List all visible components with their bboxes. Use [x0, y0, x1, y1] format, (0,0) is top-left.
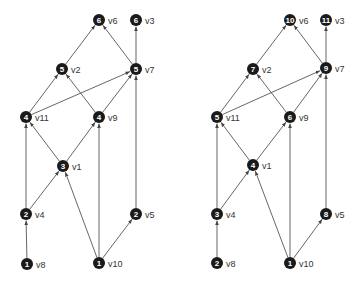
node-value: 6: [97, 16, 102, 25]
node-label: v11: [226, 113, 240, 123]
node-value: 3: [61, 162, 66, 171]
edge-v10-to-v1: [255, 171, 288, 257]
node-label: v2: [262, 65, 272, 75]
node-value: 1: [25, 260, 30, 269]
node-value: 5: [60, 65, 65, 74]
edge-v10-to-v5: [103, 219, 133, 258]
edge-v11-to-v2: [30, 74, 58, 112]
edge-v1-to-v9: [67, 122, 96, 161]
node-value: 10: [286, 16, 295, 25]
node-v10: 1v10: [93, 257, 123, 269]
edge-v4-to-v1: [30, 171, 59, 209]
edge-v1-to-v11: [221, 122, 250, 160]
node-v8: 2v8: [211, 257, 236, 269]
node-v10: 1v10: [284, 257, 314, 269]
edge-v10-to-v5: [294, 219, 323, 258]
node-label: v3: [335, 16, 345, 26]
node-value: 1: [288, 259, 293, 268]
edges-layer: [26, 25, 326, 258]
node-value: 2: [24, 210, 29, 219]
edge-v2-to-v6: [257, 25, 287, 64]
edge-v1-to-v11: [30, 122, 60, 161]
node-value: 3: [215, 210, 220, 219]
edge-v9-to-v2: [257, 74, 286, 112]
edge-v9-to-v2: [66, 74, 95, 112]
node-v2: 5v2: [56, 63, 81, 75]
edge-v4-to-v1: [221, 170, 250, 209]
node-label: v9: [108, 113, 118, 123]
edge-v10-to-v1: [65, 172, 97, 257]
node-label: v10: [299, 259, 314, 269]
node-v9: 4v9: [93, 111, 118, 123]
node-value: 7: [251, 65, 256, 74]
node-v9: 6v9: [284, 111, 309, 123]
node-label: v7: [335, 64, 345, 74]
edge-v1-to-v9: [257, 122, 286, 160]
node-label: v1: [262, 161, 272, 171]
edge-v7-to-v6: [294, 25, 323, 63]
node-v6: 6v6: [93, 14, 118, 26]
node-v4: 3v4: [211, 208, 236, 220]
node-v7: 5v7: [130, 63, 155, 75]
node-v11: 5v11: [211, 111, 240, 123]
node-value: 2: [134, 210, 139, 219]
node-value: 11: [322, 16, 331, 25]
node-label: v10: [108, 259, 123, 269]
node-label: v5: [145, 210, 155, 220]
edge-v7-to-v6: [103, 25, 132, 64]
node-value: 4: [24, 113, 29, 122]
edge-v2-to-v6: [66, 25, 96, 64]
node-value: 5: [134, 65, 139, 74]
node-v8: 1v8: [21, 258, 46, 270]
node-v7: 9v7: [320, 62, 345, 74]
node-label: v7: [145, 65, 155, 75]
node-value: 6: [134, 16, 139, 25]
edge-v11-to-v2: [221, 74, 250, 112]
edge-v8-to-v4: [26, 221, 27, 259]
node-value: 8: [324, 210, 329, 219]
node-value: 1: [97, 259, 102, 268]
dag-diagram: 6v66v35v25v74v114v93v12v42v51v81v1010v61…: [0, 0, 364, 284]
node-value: 9: [324, 64, 329, 73]
node-v1: 3v1: [57, 160, 82, 172]
node-v4: 2v4: [20, 208, 45, 220]
node-value: 4: [97, 113, 102, 122]
nodes-layer: 6v66v35v25v74v114v93v12v42v51v81v1010v61…: [20, 14, 345, 270]
node-label: v4: [35, 210, 45, 220]
node-value: 4: [251, 161, 256, 170]
edge-v9-to-v7: [294, 73, 323, 112]
node-value: 6: [288, 113, 293, 122]
node-v2: 7v2: [247, 63, 272, 75]
node-v6: 10v6: [284, 14, 309, 26]
node-label: v6: [108, 16, 118, 26]
left-graph-edges: [26, 25, 136, 258]
node-label: v9: [299, 113, 309, 123]
node-value: 2: [215, 259, 220, 268]
node-v1: 4v1: [247, 159, 272, 171]
node-v5: 8v5: [320, 208, 345, 220]
node-value: 5: [215, 113, 220, 122]
node-label: v2: [71, 65, 81, 75]
node-label: v8: [36, 260, 46, 270]
node-v3: 6v3: [130, 14, 155, 26]
node-label: v6: [299, 16, 309, 26]
node-v5: 2v5: [130, 208, 155, 220]
node-label: v5: [335, 210, 345, 220]
node-v3: 11v3: [320, 14, 345, 26]
node-label: v1: [72, 162, 82, 172]
node-label: v8: [226, 259, 236, 269]
node-label: v4: [226, 210, 236, 220]
node-label: v11: [35, 113, 49, 123]
edge-v9-to-v7: [103, 74, 132, 112]
node-v11: 4v11: [20, 111, 49, 123]
node-label: v3: [145, 16, 155, 26]
right-graph-edges: [217, 25, 326, 258]
